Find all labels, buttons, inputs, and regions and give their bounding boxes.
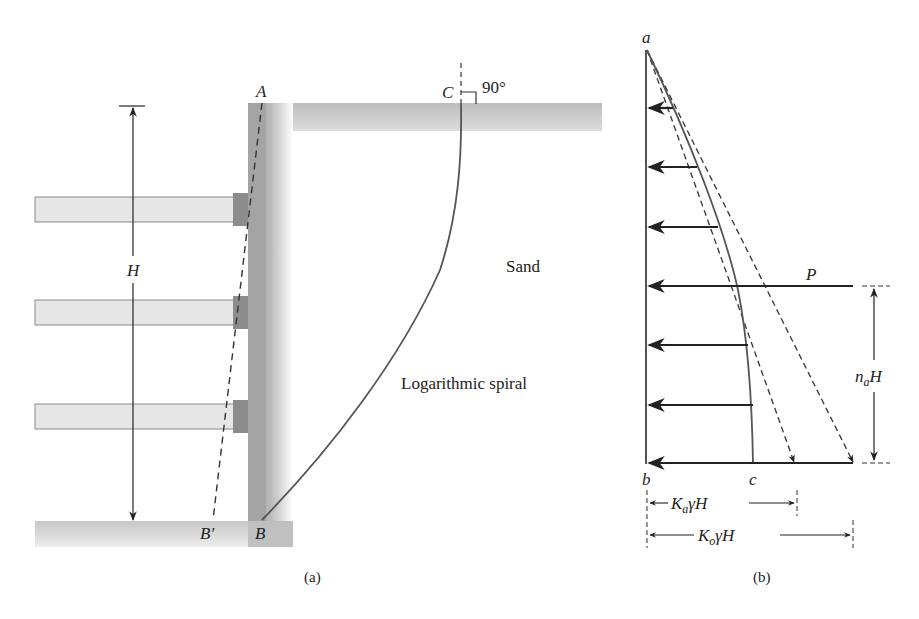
label-B: B <box>255 524 266 543</box>
label-H: H <box>126 261 141 280</box>
label-a: a <box>642 28 651 47</box>
label-logarithmic-spiral: Logarithmic spiral <box>401 374 527 393</box>
braced-cut-diagram: H A B′ B C 90° Sand Logarithmic spiral (… <box>0 0 919 619</box>
label-c: c <box>749 470 757 489</box>
label-P: P <box>805 265 816 284</box>
right-angle-icon <box>461 92 476 104</box>
panel-b: a P naH b c <box>642 28 890 586</box>
ground-surface <box>248 103 602 131</box>
actual-pressure-curve <box>647 50 753 464</box>
label-90-degrees: 90° <box>482 78 506 97</box>
label-sand: Sand <box>506 257 541 276</box>
label-na-H: naH <box>855 367 884 389</box>
wall-face <box>248 103 266 543</box>
strut-1 <box>35 193 248 226</box>
caption-a: (a) <box>304 569 321 586</box>
caption-b: (b) <box>753 569 771 586</box>
strut-3 <box>35 400 248 433</box>
label-A: A <box>255 82 267 101</box>
label-Ka-gamma-H: KaγH <box>670 494 709 516</box>
panel-a: H A B′ B C 90° Sand Logarithmic spiral (… <box>35 63 602 586</box>
label-C: C <box>442 83 454 102</box>
ka-distribution-line <box>647 50 794 462</box>
label-Ko-gamma-H: KoγH <box>697 526 736 548</box>
label-b: b <box>642 470 651 489</box>
label-B-prime: B′ <box>200 524 214 543</box>
strut-2 <box>35 296 248 329</box>
